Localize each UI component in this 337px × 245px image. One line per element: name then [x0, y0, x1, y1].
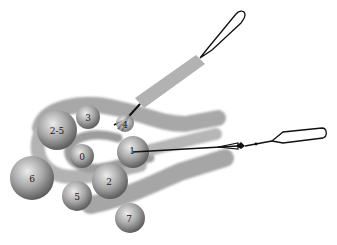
sphere-label-6: 6	[29, 174, 35, 184]
sphere-label-7: 7	[126, 214, 132, 224]
sphere-label-4: 4	[122, 120, 128, 130]
sphere-label-2: 2	[106, 177, 112, 187]
sphere-label-2-5: 2-5	[50, 126, 65, 136]
diagram-canvas	[0, 0, 337, 245]
right-stem	[245, 141, 272, 146]
sphere-label-3: 3	[85, 113, 91, 123]
upper-snare-loop-icon	[200, 11, 245, 58]
sphere-label-5: 5	[74, 192, 80, 202]
sphere-label-0: 0	[79, 152, 85, 162]
right-snare-loop-icon	[272, 128, 326, 143]
right-bead	[255, 143, 258, 146]
sphere-label-1: 1	[129, 146, 135, 156]
sleeve	[135, 55, 205, 108]
